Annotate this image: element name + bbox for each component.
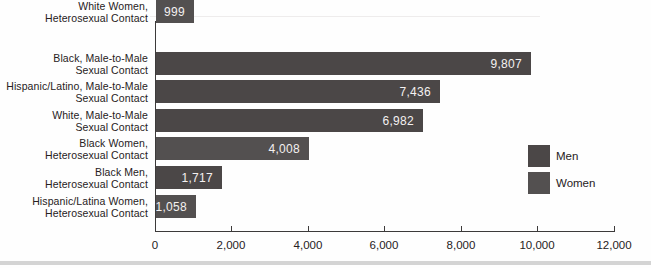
scan-artifact-bottom-strip (0, 261, 651, 265)
x-axis-tick-label: 2,000 (217, 239, 246, 251)
table-row: Black Men, Heterosexual Contact 1,717 (0, 166, 651, 189)
bar-value-label: 7,436 (399, 85, 431, 99)
bar-women: 4,008 (156, 137, 309, 160)
x-axis-tick-label: 10,000 (519, 239, 554, 251)
x-axis-tick (308, 226, 309, 232)
category-label: Black Men, Heterosexual Contact (0, 165, 148, 190)
category-label: Black, Male-to-Male Sexual Contact (0, 51, 148, 76)
category-label-line1: Black Men, (0, 165, 148, 178)
x-axis-tick (614, 226, 615, 232)
category-label: Hispanic/Latino, Male-to-Male Sexual Con… (0, 79, 148, 104)
bar-value-label: 1,058 (155, 200, 187, 214)
legend-label: Women (556, 177, 595, 189)
category-label-line2: Heterosexual Contact (0, 149, 148, 162)
category-label: Black Women, Heterosexual Contact (0, 136, 148, 161)
bar-men: 9,807 (156, 52, 531, 75)
table-row: Hispanic/Latina Women, Heterosexual Cont… (0, 195, 651, 218)
legend-swatch-women (528, 172, 550, 194)
category-label-line2: Sexual Contact (0, 121, 148, 134)
bar-men: 6,982 (156, 109, 423, 132)
bar-women: 1,058 (156, 195, 196, 218)
bar-value-label: 6,982 (382, 114, 414, 128)
x-axis-tick-label: 12,000 (596, 239, 631, 251)
category-label-line2: Sexual Contact (0, 64, 148, 77)
x-axis-tick (461, 226, 462, 232)
x-axis-tick-label: 4,000 (294, 239, 323, 251)
legend-swatch-men (528, 145, 550, 167)
table-row: Hispanic/Latino, Male-to-Male Sexual Con… (0, 80, 651, 103)
x-axis-line (155, 231, 615, 232)
bar-men: 7,436 (156, 80, 440, 103)
table-row: Black Women, Heterosexual Contact 4,008 (0, 137, 651, 160)
x-axis-tick (384, 226, 385, 232)
bar-value-label: 9,807 (490, 57, 522, 71)
x-axis-tick-label: 8,000 (447, 239, 476, 251)
legend-label: Men (556, 150, 578, 162)
bar-value-label: 4,008 (268, 142, 300, 156)
x-axis-tick-label: 0 (152, 239, 158, 251)
category-label: Hispanic/Latina Women, Heterosexual Cont… (0, 194, 148, 219)
category-label: White Women, Heterosexual Contact (0, 0, 148, 24)
table-row: Black, Male-to-Male Sexual Contact 9,807 (0, 52, 651, 75)
category-label-line1: Hispanic/Latina Women, (0, 194, 148, 207)
category-label: White, Male-to-Male Sexual Contact (0, 108, 148, 133)
x-axis-tick-label: 6,000 (370, 239, 399, 251)
table-row: White Women, Heterosexual Contact 999 (0, 0, 651, 23)
bar-women: 999 (156, 0, 194, 23)
x-axis-tick (537, 226, 538, 232)
bar-chart-figure: Black, Male-to-Male Sexual Contact 9,807… (0, 0, 651, 268)
bar-men: 1,717 (156, 166, 222, 189)
category-label-line1: White Women, (0, 0, 148, 12)
y-axis-line (155, 21, 156, 232)
x-axis-tick (231, 226, 232, 232)
category-label-line2: Heterosexual Contact (0, 12, 148, 25)
category-label-line2: Sexual Contact (0, 92, 148, 105)
category-label-line1: White, Male-to-Male (0, 108, 148, 121)
category-label-line1: Black Women, (0, 136, 148, 149)
category-label-line2: Heterosexual Contact (0, 178, 148, 191)
bar-value-label: 1,717 (181, 171, 213, 185)
table-row: White, Male-to-Male Sexual Contact 6,982 (0, 109, 651, 132)
category-label-line1: Black, Male-to-Male (0, 51, 148, 64)
category-label-line1: Hispanic/Latino, Male-to-Male (0, 79, 148, 92)
bar-value-label: 999 (164, 5, 185, 19)
category-label-line2: Heterosexual Contact (0, 207, 148, 220)
